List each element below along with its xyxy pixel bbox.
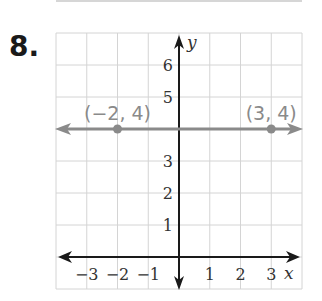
x-tick-label: −1 bbox=[136, 265, 160, 284]
x-tick-label: −3 bbox=[75, 265, 99, 284]
point-label: (−2, 4) bbox=[84, 102, 151, 124]
y-tick-label: 5 bbox=[163, 88, 173, 107]
data-point bbox=[267, 125, 276, 134]
x-tick-label: 1 bbox=[205, 265, 215, 284]
y-tick-label: 2 bbox=[163, 184, 173, 203]
x-axis-label: x bbox=[284, 263, 294, 283]
coordinate-plane: yx−3−2−112312356(−2, 4)(3, 4) bbox=[0, 0, 322, 301]
point-label: (3, 4) bbox=[246, 102, 297, 124]
y-tick-label: 1 bbox=[163, 216, 173, 235]
x-tick-label: 2 bbox=[235, 265, 245, 284]
x-tick-label: −2 bbox=[106, 265, 130, 284]
data-point bbox=[113, 125, 122, 134]
y-tick-label: 3 bbox=[163, 152, 173, 171]
y-axis-label: y bbox=[186, 32, 197, 52]
y-tick-label: 6 bbox=[163, 56, 173, 75]
x-tick-label: 3 bbox=[266, 265, 276, 284]
